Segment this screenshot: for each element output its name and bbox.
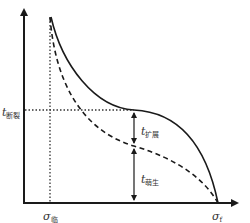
t-propagation-label: t扩展 [141, 122, 159, 138]
t-initiation-label: t萌生 [141, 170, 159, 186]
fatigue-diagram [0, 0, 250, 223]
sigma-f-label: σf [212, 207, 222, 223]
sigma-threshold-label: σ临 [43, 207, 58, 223]
t-fracture-label: t断裂 [2, 103, 20, 119]
